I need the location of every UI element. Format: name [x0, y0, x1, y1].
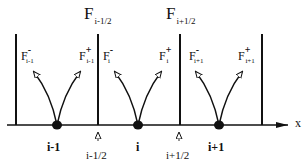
flux-sign: + [86, 44, 92, 55]
flux-subscript: i-1 [86, 57, 94, 65]
flux-subscript: i-1/2 [94, 16, 111, 26]
flux-symbol: F [166, 4, 175, 23]
node-label-i: i [136, 141, 139, 153]
flux-arrow-plus-i-1 [57, 72, 80, 125]
cell-flux-label: F-i [103, 50, 110, 62]
interface-label-i+1/2: i+1/2 [166, 150, 189, 161]
interface-flux-label: Fi-1/2 [84, 5, 111, 26]
cell-flux-label: F+i+1 [238, 50, 255, 62]
flux-symbol: F [84, 4, 93, 23]
cell-flux-label: F-i-1 [21, 50, 34, 62]
flux-symbol: F [159, 49, 166, 63]
interface-label-i-1/2: i-1/2 [86, 150, 107, 161]
cell-flux-label: F+i [159, 50, 168, 62]
flux-sign: + [245, 44, 251, 55]
node-label-i+1: i+1 [208, 141, 224, 153]
flux-arrow-minus-i+1 [196, 72, 219, 125]
flux-subscript: i+1 [194, 57, 203, 65]
flux-arrow-plus-i+1 [219, 72, 242, 125]
flux-sign: - [196, 44, 199, 55]
interface-flux-label: Fi+1/2 [166, 5, 196, 26]
flux-sign: + [166, 44, 172, 55]
flux-arrow-minus-i-1 [34, 72, 57, 125]
flux-arrow-minus-i [115, 72, 138, 125]
cell-flux-label: F-i+1 [189, 50, 203, 62]
flux-sign: - [28, 44, 31, 55]
node-dot-i [133, 121, 143, 130]
flux-subscript: i-1 [26, 57, 34, 65]
flux-subscript: i [108, 57, 110, 65]
flux-subscript: i+1 [245, 57, 254, 65]
node-dot-i+1 [214, 121, 224, 130]
flux-sign: - [110, 44, 113, 55]
flux-symbol: F [79, 49, 86, 63]
x-axis-label: x [295, 117, 301, 129]
flux-symbol: F [238, 49, 245, 63]
node-label-i-1: i-1 [47, 141, 60, 153]
flux-arrow-plus-i [138, 72, 161, 125]
node-dot-i-1 [52, 121, 62, 130]
flux-subscript: i+1/2 [176, 16, 195, 26]
cell-flux-label: F+i-1 [79, 50, 94, 62]
